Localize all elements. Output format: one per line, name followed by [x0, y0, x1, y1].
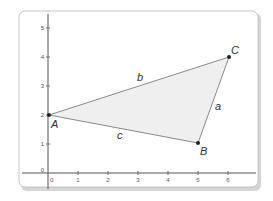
side-label-b: b — [137, 71, 143, 83]
vertex-label-b: B — [200, 145, 207, 157]
side-label-a: a — [215, 100, 221, 112]
vertex-label-c: C — [231, 44, 239, 56]
coordinate-plane-diagram: 0 1 2 3 4 5 6 0 1 2 3 4 5 A B C a b c — [0, 0, 273, 201]
side-label-c: c — [117, 129, 123, 141]
vertex-label-a: A — [50, 118, 58, 130]
vertex-point-a — [47, 113, 51, 117]
